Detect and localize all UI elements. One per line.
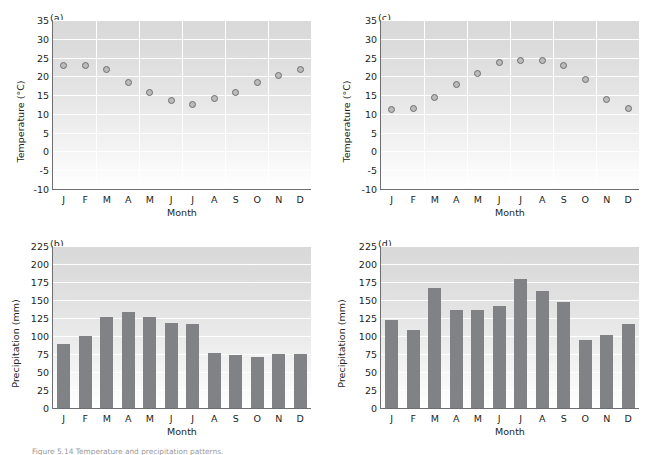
- x-axis-tick-label: N: [603, 413, 610, 424]
- y-axis-tick-label: 5: [371, 127, 377, 138]
- panel-b-x-axis-line: [52, 408, 311, 409]
- y-axis-tick-label: 30: [37, 33, 49, 44]
- y-axis-tick-label: 150: [359, 295, 377, 306]
- x-axis-tick-label: N: [275, 413, 282, 424]
- y-axis-tick-label: 5: [43, 127, 49, 138]
- gridline-vertical: [553, 20, 554, 189]
- bar: [622, 324, 635, 408]
- data-point-marker: [431, 94, 438, 101]
- panel-c-temperature: (c) Temperature (°C) -10-505101520253035…: [330, 0, 657, 228]
- bar: [272, 354, 285, 408]
- y-axis-tick-label: 75: [37, 349, 49, 360]
- gridline-vertical: [596, 20, 597, 189]
- x-axis-tick-label: A: [539, 413, 546, 424]
- bar: [122, 312, 135, 408]
- gridline-horizontal: [53, 300, 311, 301]
- data-point-marker: [517, 57, 524, 64]
- bar: [251, 357, 264, 408]
- y-axis-tick-label: 10: [37, 108, 49, 119]
- x-axis-tick-label: J: [191, 413, 194, 424]
- data-point-marker: [496, 59, 503, 66]
- y-axis-tick-label: 0: [371, 403, 377, 414]
- y-axis-tick-label: 15: [37, 90, 49, 101]
- bar: [100, 317, 113, 408]
- x-axis-tick-label: A: [539, 194, 546, 205]
- y-axis-tick-label: 175: [31, 277, 49, 288]
- x-axis-tick-label: A: [125, 194, 132, 205]
- bar: [229, 355, 242, 408]
- y-axis-tick-label: 35: [37, 15, 49, 26]
- x-axis-tick-label: O: [254, 413, 261, 424]
- panel-d-y-axis-line: [380, 246, 381, 408]
- y-axis-tick-label: 0: [43, 403, 49, 414]
- x-axis-tick-label: J: [519, 413, 522, 424]
- bar: [600, 335, 613, 408]
- x-axis-title: Month: [167, 426, 197, 437]
- x-axis-tick-label: J: [170, 413, 173, 424]
- x-axis-tick-label: J: [498, 413, 501, 424]
- data-point-marker: [103, 66, 110, 73]
- x-axis-tick-label: D: [297, 413, 304, 424]
- bar: [407, 330, 420, 408]
- gridline-vertical: [139, 20, 140, 189]
- y-axis-tick-label: 200: [31, 259, 49, 270]
- bar: [536, 291, 549, 408]
- panel-b-plot-area: 0255075100125150175200225JFMAMJJASONDMon…: [53, 246, 311, 408]
- data-point-marker: [582, 76, 589, 83]
- data-point-marker: [211, 95, 218, 102]
- x-axis-title: Month: [495, 426, 525, 437]
- panel-d-plot-area: 0255075100125150175200225JFMAMJJASONDMon…: [381, 246, 639, 408]
- panel-b-precipitation: (b) Precipitation (mm) 02550751001251501…: [0, 228, 330, 448]
- x-axis-tick-label: D: [297, 194, 304, 205]
- y-axis-tick-label: 35: [365, 15, 377, 26]
- x-axis-tick-label: N: [275, 194, 282, 205]
- gridline-horizontal: [53, 264, 311, 265]
- panel-a-y-axis-line: [52, 20, 53, 189]
- x-axis-tick-label: S: [233, 413, 239, 424]
- x-axis-tick-label: O: [254, 194, 261, 205]
- gridline-vertical: [182, 20, 183, 189]
- x-axis-tick-label: D: [625, 194, 632, 205]
- panel-c-plot-area: -10-505101520253035JFMAMJJASONDMonth: [381, 20, 639, 189]
- y-axis-tick-label: 0: [371, 146, 377, 157]
- x-axis-tick-label: A: [211, 413, 218, 424]
- bar: [165, 323, 178, 408]
- panel-c-y-axis-line: [380, 20, 381, 189]
- y-axis-tick-label: -5: [40, 165, 49, 176]
- x-axis-tick-label: A: [453, 413, 460, 424]
- data-point-marker: [60, 62, 67, 69]
- y-axis-tick-label: 25: [365, 385, 377, 396]
- climate-figure: (a) Temperature (°C) -10-505101520253035…: [0, 0, 657, 455]
- x-axis-tick-label: A: [211, 194, 218, 205]
- panel-d-x-axis-line: [380, 408, 639, 409]
- y-axis-tick-label: 100: [31, 331, 49, 342]
- y-axis-tick-label: -5: [368, 165, 377, 176]
- x-axis-title: Month: [167, 207, 197, 218]
- data-point-marker: [625, 105, 632, 112]
- gridline-vertical: [225, 20, 226, 189]
- gridline-vertical: [510, 20, 511, 189]
- x-axis-tick-label: A: [125, 413, 132, 424]
- y-axis-tick-label: 25: [365, 52, 377, 63]
- gridline-horizontal: [381, 300, 639, 301]
- x-axis-tick-label: J: [191, 194, 194, 205]
- x-axis-tick-label: O: [582, 194, 589, 205]
- x-axis-tick-label: F: [83, 413, 88, 424]
- x-axis-tick-label: M: [103, 194, 111, 205]
- bar: [57, 344, 70, 408]
- y-axis-tick-label: 15: [365, 90, 377, 101]
- x-axis-tick-label: J: [170, 194, 173, 205]
- y-axis-tick-label: 10: [365, 108, 377, 119]
- panel-c-y-axis-title: Temperature (°C): [341, 62, 352, 182]
- y-axis-tick-label: 0: [43, 146, 49, 157]
- x-axis-tick-label: J: [498, 194, 501, 205]
- y-axis-tick-label: 20: [37, 71, 49, 82]
- y-axis-tick-label: 20: [365, 71, 377, 82]
- y-axis-tick-label: 50: [37, 367, 49, 378]
- panel-d-y-axis-title: Precipitation (mm): [336, 279, 347, 409]
- y-axis-tick-label: 30: [365, 33, 377, 44]
- panel-a-y-axis-title: Temperature (°C): [15, 62, 26, 182]
- data-point-marker: [82, 62, 89, 69]
- panel-b-y-axis-line: [52, 246, 53, 408]
- x-axis-tick-label: J: [62, 194, 65, 205]
